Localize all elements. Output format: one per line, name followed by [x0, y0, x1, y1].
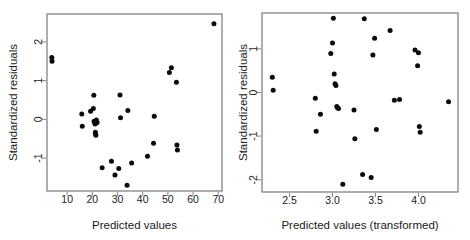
y-tick-label: 2 [32, 39, 44, 45]
data-point [50, 59, 55, 64]
data-point [167, 70, 172, 75]
data-point [318, 112, 323, 117]
x-axis-label: Predicted values (transformed) [281, 219, 438, 231]
figure-svg: 10203040506070-1012Predicted valuesStand… [0, 0, 470, 240]
data-point [125, 183, 130, 188]
data-point [271, 88, 276, 93]
data-points [49, 21, 216, 188]
y-tick-label: 1 [32, 78, 44, 84]
data-point [328, 51, 333, 56]
data-point [370, 52, 375, 57]
data-point [118, 92, 123, 97]
data-point [145, 154, 150, 159]
data-point [415, 63, 420, 68]
data-point [397, 97, 402, 102]
data-point [80, 124, 85, 129]
data-point [129, 161, 134, 166]
scatter-panels: 10203040506070-1012Predicted valuesStand… [0, 0, 470, 240]
y-axis-label: Standardized residuals [7, 44, 19, 161]
x-tick-label: 4.0 [411, 194, 426, 206]
data-point [330, 41, 335, 46]
data-point [352, 136, 357, 141]
data-point [95, 120, 100, 125]
x-tick-label: 50 [162, 193, 174, 205]
figure-root: 10203040506070-1012Predicted valuesStand… [0, 0, 470, 240]
data-point [91, 106, 96, 111]
data-point [388, 28, 393, 33]
data-point [369, 175, 374, 180]
data-point [362, 16, 367, 21]
data-point [374, 127, 379, 132]
data-point [446, 99, 451, 104]
data-point [314, 129, 319, 134]
x-tick-label: 30 [112, 193, 124, 205]
data-point [125, 108, 130, 113]
x-tick-label: 70 [212, 193, 224, 205]
data-point [118, 115, 123, 120]
x-tick-label: 40 [137, 193, 149, 205]
data-point [174, 142, 179, 147]
x-tick-label: 20 [86, 193, 98, 205]
data-point [109, 159, 114, 164]
plot-frame [47, 14, 222, 191]
data-point [313, 96, 318, 101]
data-point [333, 83, 338, 88]
data-point [360, 172, 365, 177]
x-tick-label: 3.5 [368, 194, 383, 206]
data-point [417, 124, 422, 129]
x-tick-label: 10 [61, 193, 73, 205]
data-points [270, 16, 451, 187]
data-point [116, 166, 121, 171]
y-tick-label: -2 [247, 175, 259, 184]
y-axis-label: Standardized residuals [237, 44, 249, 161]
x-tick-label: 2.5 [282, 194, 297, 206]
data-point [372, 36, 377, 41]
panel-right: 2.53.03.54.0-2-101Predicted values (tran… [237, 13, 458, 231]
plot-frame [262, 13, 458, 192]
data-point [100, 165, 105, 170]
x-tick-label: 3.0 [325, 194, 340, 206]
data-point [270, 75, 275, 80]
data-point [91, 93, 96, 98]
data-point [169, 65, 174, 70]
data-point [332, 72, 337, 77]
data-point [340, 182, 345, 187]
data-point [392, 98, 397, 103]
data-point [416, 50, 421, 55]
data-point [174, 80, 179, 85]
data-point [112, 173, 117, 178]
data-point [211, 21, 216, 26]
y-tick-label: -1 [32, 153, 44, 162]
y-tick-label: 0 [32, 116, 44, 122]
data-point [175, 147, 180, 152]
panel-left: 10203040506070-1012Predicted valuesStand… [7, 14, 224, 231]
data-point [331, 16, 336, 21]
data-point [351, 107, 356, 112]
data-point [151, 141, 156, 146]
x-tick-label: 60 [187, 193, 199, 205]
data-point [418, 130, 423, 135]
data-point [152, 114, 157, 119]
x-axis-label: Predicted values [92, 219, 177, 231]
data-point [79, 111, 84, 116]
data-point [93, 133, 98, 138]
data-point [336, 106, 341, 111]
